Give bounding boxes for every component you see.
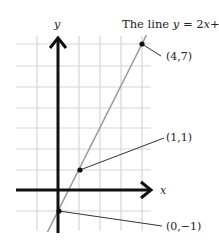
x-axis	[16, 182, 151, 198]
line-chart-figure: y x The line y = 2x+1 (4,7) (1,1) (0,−1)	[0, 0, 219, 248]
chart-title: The line y = 2x+1	[122, 17, 219, 31]
point-label-0-neg1: (0,−1)	[166, 220, 201, 233]
point-4-7	[139, 41, 144, 46]
point-1-1	[77, 167, 82, 172]
point-label-1-1: (1,1)	[166, 131, 192, 144]
point-0-neg1	[56, 208, 61, 213]
point-label-4-7: (4,7)	[166, 50, 192, 63]
y-axis-label: y	[53, 18, 61, 31]
x-axis-label: x	[160, 184, 167, 197]
line-series	[48, 35, 147, 232]
leader-line-0-neg1	[59, 211, 162, 226]
leader-line-4-7	[142, 44, 161, 56]
leader-lines	[59, 44, 164, 226]
chart-svg: y x The line y = 2x+1 (4,7) (1,1) (0,−1)	[0, 0, 219, 248]
y-axis	[50, 38, 66, 233]
